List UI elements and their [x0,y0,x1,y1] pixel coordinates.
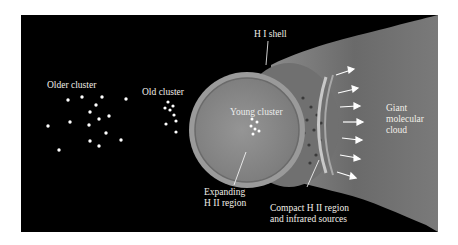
label-giant-molecular-cloud: Giant molecular cloud [386,103,424,136]
label-young-cluster: Young cluster [230,107,283,118]
expanding-hii-region [195,78,299,182]
label-compact-hii: Compact H II region and infrared sources [270,203,349,225]
older-cluster-stars [46,95,127,151]
label-expanding-hii: Expanding H II region [204,187,246,209]
label-older-cluster: Older cluster [47,80,96,91]
label-hi-shell: H I shell [254,29,287,40]
diagram-panel: Older cluster Old cluster H I shell Youn… [21,15,438,232]
label-old-cluster: Old cluster [142,87,184,98]
old-cluster-stars [163,100,177,133]
